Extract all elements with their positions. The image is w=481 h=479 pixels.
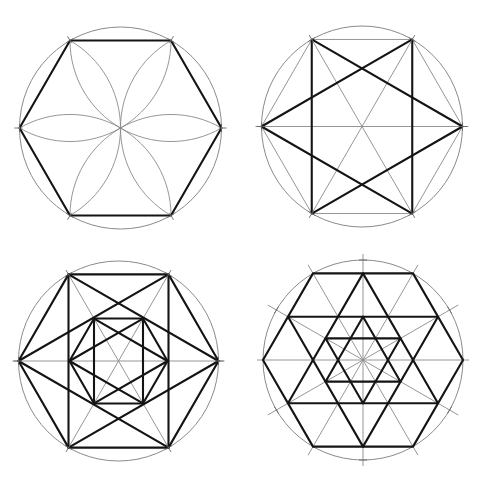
petal-arc: [70, 41, 121, 216]
petal-arc: [20, 114, 172, 215]
edge-tick: [274, 407, 278, 414]
panel-hexagram-in-hexagon: [256, 26, 469, 227]
edge-tick: [448, 407, 452, 414]
radial-guide: [308, 265, 363, 360]
radial-guide: [363, 360, 458, 415]
panel-nested-hexagram: [13, 261, 225, 461]
panel-triangular-lattice-star: [257, 254, 469, 466]
radial-guide: [363, 305, 458, 360]
radial-guide: [363, 265, 418, 360]
radial-guide: [268, 305, 363, 360]
radial-guide: [308, 360, 363, 455]
petal-arc: [70, 41, 222, 142]
radial-guide: [268, 360, 363, 415]
panel-hexagon-with-petals: [15, 27, 227, 229]
petal-arc: [121, 41, 172, 216]
radial-guide: [363, 360, 418, 455]
petal-arc: [70, 114, 222, 215]
edge-tick: [274, 307, 278, 314]
diagram-canvas: [0, 0, 481, 479]
edge-tick: [448, 307, 452, 314]
petal-arc: [20, 41, 172, 142]
